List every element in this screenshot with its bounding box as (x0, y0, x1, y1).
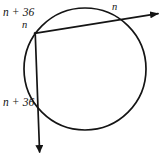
secant-ray-vertical (35, 33, 39, 153)
geometry-diagram: n + 36 n n n + 36 (0, 0, 166, 164)
label-arc-upper-right: n (112, 2, 117, 13)
label-angle-vertex: n (22, 20, 27, 31)
circle-outline (24, 8, 146, 130)
label-arc-upper-left: n + 36 (3, 7, 34, 19)
label-arc-lower-left: n + 36 (3, 97, 34, 109)
